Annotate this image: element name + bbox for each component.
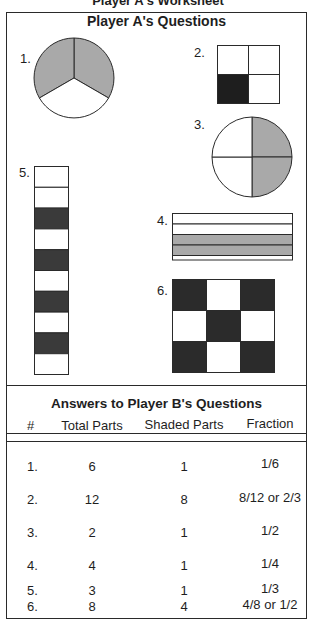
row-6-fraction: 4/8 or 1/2 <box>229 597 311 612</box>
row-2-shaded-parts: 8 <box>129 492 239 507</box>
row-2-total-parts: 12 <box>47 492 137 507</box>
question-6-grid-figure <box>172 279 276 373</box>
question-3-circle-figure <box>210 115 294 199</box>
worksheet-frame: Player A's Questions 1. 2. 3. 5. 4. <box>6 12 307 619</box>
row-4-fraction: 1/4 <box>229 556 311 571</box>
question-4-strips-figure <box>172 213 294 261</box>
column-header-total-parts: Total Parts <box>47 418 137 433</box>
row-5-fraction: 1/3 <box>229 581 311 596</box>
column-header-shaded-parts: Shaded Parts <box>129 417 239 432</box>
worksheet-title: Player A's Worksheet <box>0 0 316 8</box>
row-1-fraction: 1/6 <box>229 456 311 471</box>
question-3-number: 3. <box>194 117 205 132</box>
question-6-number: 6. <box>157 283 168 298</box>
answers-section-title: Answers to Player B's Questions <box>7 396 306 411</box>
header-rule-2 <box>7 441 306 442</box>
question-2-number: 2. <box>194 45 205 60</box>
question-1-number: 1. <box>20 51 31 66</box>
row-3-fraction: 1/2 <box>229 523 311 538</box>
row-3-total-parts: 2 <box>47 525 137 540</box>
column-header-fraction: Fraction <box>229 416 311 431</box>
section-divider <box>7 385 306 386</box>
header-rule-1 <box>7 433 306 434</box>
question-5-number: 5. <box>19 165 30 180</box>
row-1-total-parts: 6 <box>47 459 137 474</box>
row-5-total-parts: 3 <box>47 583 137 598</box>
question-2-square-figure <box>217 45 281 105</box>
row-4-shaded-parts: 1 <box>129 558 239 573</box>
row-4-total-parts: 4 <box>47 558 137 573</box>
row-6-shaded-parts: 4 <box>129 599 239 614</box>
question-4-number: 4. <box>157 213 168 228</box>
questions-section-title: Player A's Questions <box>7 13 306 29</box>
row-1-shaded-parts: 1 <box>129 459 239 474</box>
row-2-fraction: 8/12 or 2/3 <box>229 490 311 505</box>
question-1-circle-figure <box>32 36 116 120</box>
row-6-total-parts: 8 <box>47 599 137 614</box>
question-5-strip-figure <box>34 166 70 376</box>
row-3-shaded-parts: 1 <box>129 525 239 540</box>
row-5-shaded-parts: 1 <box>129 583 239 598</box>
